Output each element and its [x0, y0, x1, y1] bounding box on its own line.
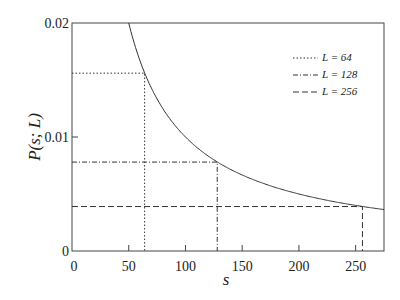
y-axis-label: P(s; L): [25, 113, 44, 162]
y-tick-label: 0.02: [45, 16, 70, 31]
y-tick-label: 0: [62, 244, 69, 259]
legend: L = 64L = 128L = 256: [293, 51, 358, 97]
x-tick-label: 200: [288, 259, 309, 274]
axis-ticks: 05010015020025000.010.02: [45, 16, 367, 274]
x-tick-label: 100: [175, 259, 196, 274]
x-tick-label: 50: [122, 259, 136, 274]
x-tick-label: 0: [71, 259, 78, 274]
legend-entry: L = 256: [321, 85, 358, 97]
x-tick-label: 250: [345, 259, 366, 274]
x-tick-label: 150: [232, 259, 253, 274]
y-tick-label: 0.01: [45, 130, 70, 145]
x-axis-label: s: [223, 270, 230, 289]
chart: 05010015020025000.010.02 L = 64L = 128L …: [0, 0, 400, 300]
legend-entry: L = 128: [321, 68, 358, 80]
legend-entry: L = 64: [321, 51, 352, 63]
